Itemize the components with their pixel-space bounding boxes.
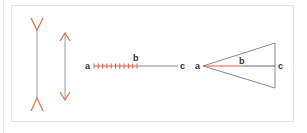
illusion-diagram: a b c a b c	[0, 0, 307, 133]
label-c: c	[180, 61, 185, 71]
triangle-label-b: b	[239, 56, 245, 66]
triangle-label-c: c	[278, 61, 283, 71]
bisected-line-figure: a b c	[85, 53, 185, 71]
label-b: b	[133, 53, 139, 63]
triangle-figure: a b c	[195, 43, 283, 88]
muller-lyer-arrowheads	[60, 33, 70, 100]
label-a: a	[85, 61, 91, 71]
muller-lyer-fins-out	[31, 18, 43, 111]
triangle-label-a: a	[195, 61, 201, 71]
